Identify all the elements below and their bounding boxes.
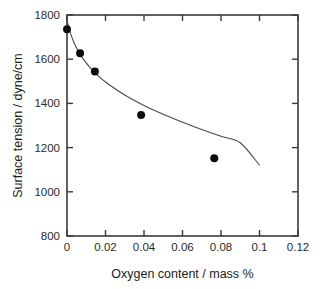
x-tick-label: 0.08	[210, 241, 232, 253]
y-tick-label: 800	[41, 230, 60, 242]
y-tick-label: 1600	[34, 53, 60, 65]
x-tick-label: 0.04	[133, 241, 156, 253]
tick-marks	[67, 15, 298, 236]
data-point	[137, 111, 145, 119]
x-tick-label: 0	[64, 241, 70, 253]
x-tick-label: 0.12	[287, 241, 309, 253]
y-tick-label: 1200	[34, 142, 60, 154]
y-axis-title: Surface tension / dyne/cm	[11, 53, 25, 198]
scatter-plot: 00.020.040.060.080.10.128001000120014001…	[0, 0, 326, 289]
data-point	[210, 154, 218, 162]
y-tick-label: 1800	[34, 9, 60, 21]
data-point	[76, 49, 84, 57]
x-tick-label: 0.06	[171, 241, 193, 253]
y-tick-label: 1000	[34, 186, 60, 198]
y-tick-label: 1400	[34, 97, 60, 109]
data-point	[91, 68, 99, 76]
data-point	[63, 25, 71, 33]
data-points	[63, 25, 218, 162]
x-tick-label: 0.1	[252, 241, 268, 253]
x-axis-title: Oxygen content / mass %	[111, 267, 253, 281]
chart-figure: 00.020.040.060.080.10.128001000120014001…	[0, 0, 326, 289]
fit-curve-path	[67, 21, 260, 166]
plot-frame	[67, 15, 298, 236]
fitted-curve	[67, 21, 260, 166]
x-tick-label: 0.02	[94, 241, 116, 253]
